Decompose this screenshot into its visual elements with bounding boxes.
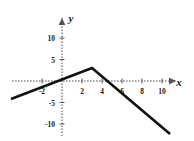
x-tick-label: 10: [158, 87, 166, 96]
y-tick-label: 5: [51, 56, 55, 65]
x-axis-label: x: [175, 76, 182, 88]
y-tick-label: -10: [45, 120, 55, 129]
chart-container: -2 2 4 6 8 10 10 5 -5 -10 x y: [0, 0, 194, 141]
chart-plot-area: -2 2 4 6 8 10 10 5 -5 -10 x y: [0, 0, 194, 141]
data-series-line: [11, 68, 170, 134]
y-axis-arrow-icon: [59, 18, 66, 25]
x-tick-label: 8: [140, 87, 144, 96]
y-axis-label: y: [67, 12, 74, 24]
x-axis-arrow-icon: [169, 78, 176, 85]
y-tick-label: 10: [48, 34, 56, 43]
y-tick-label: -5: [49, 99, 55, 108]
x-tick-label: 2: [80, 87, 84, 96]
x-tick-label: 4: [100, 87, 104, 96]
